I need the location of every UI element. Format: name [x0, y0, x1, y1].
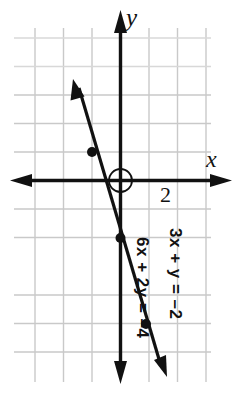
- point-marker: [116, 233, 126, 243]
- point-marker: [87, 147, 97, 157]
- graph-figure: y x 2 3x + y = –2 6x + 2y = –4: [0, 0, 241, 418]
- coordinate-plane-svg: [0, 0, 241, 418]
- y-axis-label: y: [126, 5, 137, 30]
- equation-label-3x-plus-y: 3x + y = –2: [165, 228, 185, 320]
- x-tick-label-2: 2: [160, 184, 171, 206]
- x-axis-label: x: [206, 147, 217, 171]
- equation-label-6x-plus-2y: 6x + 2y = –4: [132, 237, 152, 338]
